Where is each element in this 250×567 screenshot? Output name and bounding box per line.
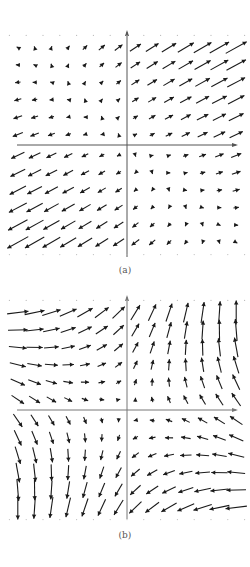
arrowhead-icon [32, 515, 36, 519]
arrowhead-icon [184, 240, 188, 245]
arrowhead-icon [227, 470, 231, 474]
arrowhead-icon [194, 489, 198, 493]
grid-dot [160, 300, 161, 301]
grid-dot [76, 519, 77, 520]
arrowhead-icon [212, 453, 216, 457]
grid-dot [42, 35, 43, 36]
arrowhead-icon [82, 475, 86, 479]
arrowhead-icon [69, 380, 73, 384]
arrowhead-icon [33, 459, 37, 463]
arrowhead-icon [86, 362, 90, 366]
arrowhead-icon [133, 398, 137, 402]
grid-dot [177, 35, 178, 36]
arrowhead-icon [216, 222, 221, 226]
grid-dot [177, 254, 178, 255]
arrowhead-icon [21, 364, 25, 368]
grid-dot [9, 254, 10, 255]
arrowhead-icon [168, 222, 172, 226]
grid-dot [26, 254, 27, 255]
arrowhead-icon [216, 357, 220, 361]
arrowhead-icon [66, 115, 70, 119]
arrowhead-icon [151, 205, 155, 209]
arrowhead-icon [16, 63, 20, 67]
arrowhead-icon [70, 362, 74, 366]
grid-dot [93, 300, 94, 301]
x-axis-arrowhead-icon [232, 408, 238, 412]
arrowhead-icon [16, 497, 20, 501]
arrowhead-icon [218, 301, 222, 305]
grid-dot [210, 35, 211, 36]
arrowhead-icon [228, 452, 232, 456]
grid-dot [110, 300, 111, 301]
arrowhead-icon [116, 98, 120, 102]
grid-dot [93, 519, 94, 520]
arrowhead-icon [210, 488, 214, 492]
arrowhead-icon [50, 97, 54, 101]
arrowhead-icon [39, 327, 43, 331]
arrowhead-icon [132, 134, 137, 138]
arrowhead-icon [14, 98, 18, 102]
grid-dot [160, 519, 161, 520]
arrowhead-icon [55, 327, 59, 331]
arrowhead-icon [218, 188, 222, 192]
arrowhead-icon [183, 377, 187, 381]
arrowhead-icon [197, 435, 201, 439]
arrowhead-icon [33, 80, 37, 84]
grid-dot [42, 519, 43, 520]
arrowhead-icon [82, 81, 86, 86]
arrowhead-icon [66, 476, 70, 480]
grid-dot [160, 254, 161, 255]
arrowhead-icon [116, 398, 120, 402]
arrowhead-icon [40, 309, 44, 313]
grid-dot [59, 254, 60, 255]
grid-dot [210, 300, 211, 301]
arrowhead-icon [167, 341, 171, 345]
arrowhead-icon [17, 47, 22, 51]
grid-dot [244, 300, 245, 301]
arrowhead-icon [53, 381, 57, 385]
arrowhead-icon [134, 187, 138, 191]
arrowhead-icon [150, 360, 154, 364]
arrowhead-icon [149, 154, 153, 158]
grid-dot [26, 300, 27, 301]
grid-dot [160, 35, 161, 36]
arrowhead-icon [117, 152, 122, 156]
arrowhead-icon [33, 64, 38, 68]
grid-dot [42, 254, 43, 255]
arrowhead-icon [150, 397, 154, 401]
grid-dot [177, 300, 178, 301]
arrowhead-icon [196, 453, 200, 457]
arrowhead-icon [99, 456, 103, 460]
panel-a [0, 28, 250, 263]
grid-dot [110, 254, 111, 255]
grid-dot [59, 35, 60, 36]
arrowhead-icon [39, 345, 43, 349]
arrowhead-icon [66, 457, 70, 461]
arrowhead-icon [166, 171, 170, 175]
arrowhead-icon [200, 339, 204, 343]
grid-dot [143, 519, 144, 520]
panel-b [0, 293, 250, 525]
arrowhead-icon [179, 471, 183, 475]
grid-dot [194, 35, 195, 36]
arrowhead-icon [99, 419, 103, 423]
grid-dot [26, 519, 27, 520]
grid-dot [143, 254, 144, 255]
grid-dot [93, 254, 94, 255]
grid-dot [42, 300, 43, 301]
grid-dot [110, 519, 111, 520]
arrowhead-icon [150, 419, 154, 423]
arrowhead-icon [217, 320, 221, 324]
arrowhead-icon [83, 457, 87, 461]
grid-dot [126, 35, 127, 36]
arrowhead-icon [16, 515, 20, 519]
grid-dot [110, 35, 111, 36]
arrowhead-icon [150, 378, 154, 382]
arrowhead-icon [180, 453, 184, 457]
grid-dot [227, 300, 228, 301]
arrowhead-icon [168, 204, 172, 209]
arrowhead-icon [149, 436, 153, 440]
grid-dot [177, 519, 178, 520]
grid-dot [9, 35, 10, 36]
arrowhead-icon [82, 63, 86, 67]
